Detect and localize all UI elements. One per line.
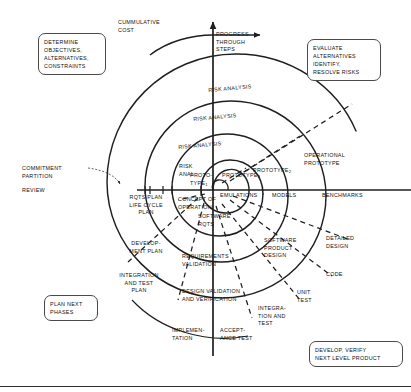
models-label: MODELS xyxy=(272,192,296,200)
cumulative-cost-label: CUMMULATIVE COST xyxy=(118,19,160,34)
benchmarks-label: BENCHMARKS xyxy=(322,192,363,200)
progress-through-steps-label: PROGRESS THROUGH STEPS xyxy=(216,31,249,54)
spiral-model-diagram: CUMMULATIVE COST PROGRESS THROUGH STEPS … xyxy=(0,0,411,392)
review-label: REVIEW xyxy=(22,187,45,195)
page-bottom-rule xyxy=(0,386,411,387)
commitment-partition-label: COMMITMENT PARTITION xyxy=(22,165,62,180)
emulations-label: EMULATIONS xyxy=(220,192,257,200)
prototype-1-label: PROTO- TYPE1 xyxy=(190,172,213,187)
box-evaluate-alternatives: EVALUATE ALTERNATIVES IDENTIFY, RESOLVE … xyxy=(307,39,381,81)
software-rqts-label: SOFTWARE RQTS xyxy=(198,213,231,228)
radial-lr-3 xyxy=(233,196,350,240)
progress-curve xyxy=(150,35,213,55)
commitment-leader xyxy=(88,168,120,184)
box-determine-objectives: DETERMINE OBJECTIVES, ALTERNATIVES, CONS… xyxy=(38,33,106,75)
box-plan-next-phases: PLAN NEXT PHASES xyxy=(44,295,98,321)
design-validation-label: DESIGN VALIDATION AND VERIFICATION xyxy=(182,288,240,303)
software-product-design-label: SOFTWARE PRODUCT DESIGN xyxy=(264,237,297,260)
integration-and-test-label: INTEGRA- TION AND TEST xyxy=(258,305,286,328)
rqts-plan-label: RQTS PLAN LIFE CYCLE PLAN xyxy=(123,194,169,217)
implementation-label: IMPLEMEN- TATION xyxy=(172,327,204,342)
concept-of-operation-label: CONCEPT OF OPERATION xyxy=(178,196,216,211)
prototype-2-label: PROTOTYPE2 xyxy=(253,167,291,175)
operational-prototype-label: OPERATIONAL PROTOTYPE xyxy=(304,152,345,167)
acceptance-test-label: ACCEPT- ANCE TEST xyxy=(220,327,253,342)
box-develop-verify: DEVELOP, VERIFY NEXT LEVEL PRODUCT xyxy=(309,341,403,367)
requirements-validation-label: REQUIREMENTS VALIDATION xyxy=(182,253,229,268)
unit-test-label: UNIT TEST xyxy=(297,289,312,304)
detailed-design-label: DETAILED DESIGN xyxy=(326,235,354,250)
integration-and-test-plan-label: INTEGRATION AND TEST PLAN xyxy=(110,272,168,295)
development-plan-label: DEVELOP- MENT PLAN xyxy=(123,240,169,255)
code-label: CODE xyxy=(326,271,343,279)
